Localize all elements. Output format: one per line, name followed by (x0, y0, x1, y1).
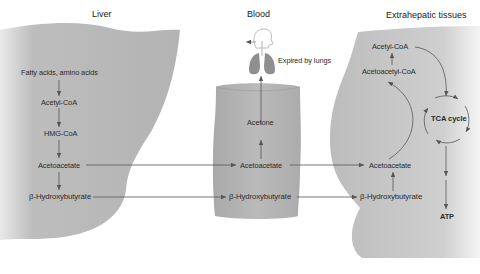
header-liver: Liver (92, 9, 112, 19)
lungs-icon (246, 29, 275, 74)
extra-acetyl-coa-label: Acetyl-CoA (372, 42, 408, 51)
extra-acetoacetyl-coa-label: Acetoacetyl-CoA (362, 67, 416, 76)
liver-hmg-coa-label: HMG-CoA (44, 129, 77, 138)
liver-acetoacetate-label: Acetoacetate (38, 161, 80, 170)
liver-acetyl-coa-label: Acetyl-CoA (41, 98, 77, 107)
blood-acetoacetate-label: Acetoacetate (240, 161, 282, 170)
extrahepatic-shape (330, 26, 480, 258)
extra-acetoacetate-label: Acetoacetate (369, 161, 411, 170)
atp-label: ATP (440, 212, 454, 221)
liver-hydroxybutyrate-label: β-Hydroxybutyrate (29, 192, 91, 201)
blood-acetone-label: Acetone (247, 118, 273, 127)
liver-fatty-acids-label: Fatty acids, amino acids (21, 68, 98, 77)
extra-hydroxybutyrate-label: β-Hydroxybutyrate (360, 192, 422, 201)
header-blood: Blood (247, 9, 270, 19)
blood-hydroxybutyrate-label: β-Hydroxybutyrate (229, 192, 291, 201)
expired-by-lungs-label: Expired by lungs (278, 56, 331, 65)
header-extrahepatic: Extrahepatic tissues (386, 10, 467, 20)
liver-shape (0, 23, 180, 240)
tca-cycle-label: TCA cycle (431, 114, 467, 123)
